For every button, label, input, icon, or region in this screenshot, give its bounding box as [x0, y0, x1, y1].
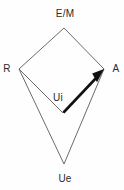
- vector-ui-shaft: [64, 77, 98, 113]
- edge-r-to-em: [19, 28, 64, 69]
- label-em: E/M: [48, 8, 82, 19]
- label-ui: Ui: [48, 92, 68, 103]
- label-r: R: [1, 63, 13, 74]
- edge-r-to-ue: [19, 69, 64, 164]
- vector-diagram: E/M R A Ui Ue: [0, 0, 124, 190]
- label-ue: Ue: [48, 173, 82, 184]
- edge-ui-to-r: [19, 69, 63, 113]
- edge-ue-to-a: [64, 69, 104, 164]
- label-a: A: [110, 63, 122, 74]
- edge-em-to-a: [64, 28, 104, 69]
